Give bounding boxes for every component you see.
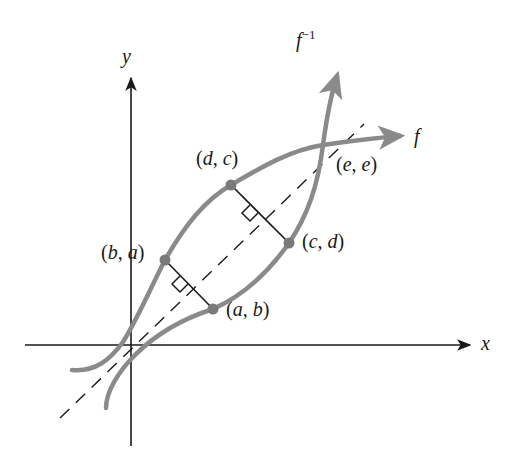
coord-2: d — [328, 230, 338, 252]
coord-1: d — [203, 147, 213, 169]
comma: , — [213, 147, 223, 169]
coord-2: b — [253, 298, 263, 320]
perpendicular-segment-dc-cd — [231, 185, 289, 243]
label-point-b-a: (b, a) — [101, 242, 144, 262]
coord-1: e — [343, 153, 352, 175]
label-point-e-e: (e, e) — [336, 154, 377, 174]
comma: , — [352, 153, 362, 175]
paren-close: ) — [370, 153, 377, 175]
paren-close: ) — [232, 147, 239, 169]
comma: , — [318, 230, 328, 252]
paren-open: ( — [302, 230, 309, 252]
label-point-c-d: (c, d) — [302, 231, 344, 251]
coord-1: b — [108, 241, 118, 263]
paren-close: ) — [263, 298, 270, 320]
curve-f-inverse-label-superscript: −1 — [302, 27, 316, 42]
comma: , — [243, 298, 253, 320]
right-angle-marker-upper — [242, 205, 258, 221]
point-d-c — [226, 180, 237, 191]
x-axis-label: x — [481, 333, 490, 353]
y-axis-label: y — [122, 46, 131, 66]
point-a-b — [208, 304, 219, 315]
label-point-a-b: (a, b) — [226, 299, 269, 319]
curve-f-inverse-label: f−1 — [296, 28, 315, 50]
point-c-d — [284, 238, 295, 249]
diagram-canvas — [0, 0, 521, 469]
paren-close: ) — [338, 230, 345, 252]
paren-open: ( — [101, 241, 108, 263]
coord-2: a — [128, 241, 138, 263]
paren-open: ( — [226, 298, 233, 320]
curve-f-label: f — [414, 126, 420, 146]
right-angle-marker-lower — [172, 276, 188, 292]
point-b-a — [160, 255, 171, 266]
inverse-function-diagram: y x f−1 f (d, c) (e, e) (b, a) (c, d) (a… — [0, 0, 521, 469]
coord-1: a — [233, 298, 243, 320]
comma: , — [118, 241, 128, 263]
label-point-d-c: (d, c) — [196, 148, 238, 168]
paren-close: ) — [138, 241, 145, 263]
coord-2: c — [223, 147, 232, 169]
paren-open: ( — [196, 147, 203, 169]
coord-1: c — [309, 230, 318, 252]
paren-open: ( — [336, 153, 343, 175]
